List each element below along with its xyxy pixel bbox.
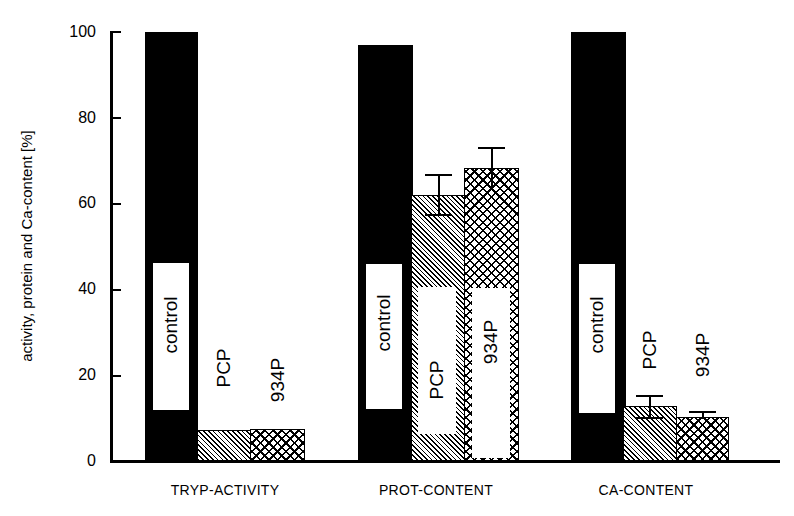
y-tickmark bbox=[113, 203, 121, 205]
error-cap bbox=[425, 174, 452, 176]
bar-label-934p: 934P bbox=[480, 320, 502, 364]
error-cap bbox=[689, 411, 716, 413]
error-cap bbox=[636, 417, 663, 419]
y-tickmark bbox=[113, 375, 121, 377]
error-bar bbox=[649, 395, 651, 418]
bar-tryp-934p bbox=[250, 429, 305, 461]
error-bar bbox=[491, 147, 493, 188]
error-bar bbox=[438, 174, 440, 215]
label-box bbox=[472, 288, 510, 458]
bar-label-control: control bbox=[586, 296, 608, 353]
error-cap bbox=[478, 147, 505, 149]
y-tickmark bbox=[113, 117, 121, 119]
bar-label-control: control bbox=[160, 296, 182, 353]
y-tick-40: 40 bbox=[56, 280, 96, 298]
category-label: PROT-CONTENT bbox=[379, 482, 493, 498]
y-tick-100: 100 bbox=[56, 23, 96, 41]
bar-label-934p: 934P bbox=[692, 333, 714, 377]
y-tickmark bbox=[113, 289, 121, 291]
error-cap bbox=[636, 395, 663, 397]
bar-label-control: control bbox=[373, 294, 395, 351]
y-tick-0: 0 bbox=[56, 452, 96, 470]
bar-tryp-pcp bbox=[197, 430, 251, 461]
bar-label-pcp: PCP bbox=[426, 360, 448, 399]
bar-label-pcp: PCP bbox=[639, 330, 661, 369]
y-tick-60: 60 bbox=[56, 194, 96, 212]
category-label: CA-CONTENT bbox=[599, 482, 694, 498]
y-tick-80: 80 bbox=[56, 109, 96, 127]
y-tick-20: 20 bbox=[56, 366, 96, 384]
error-cap bbox=[425, 214, 452, 216]
bar-ca-934p bbox=[676, 417, 729, 461]
bar-label-934p: 934P bbox=[267, 358, 289, 402]
y-tickmark bbox=[113, 31, 121, 33]
y-axis-label: activity, protein and Ca-content [%] bbox=[18, 130, 35, 362]
bar-label-pcp: PCP bbox=[213, 348, 235, 387]
y-axis-line bbox=[110, 31, 113, 463]
category-label: TRYP-ACTIVITY bbox=[171, 482, 280, 498]
